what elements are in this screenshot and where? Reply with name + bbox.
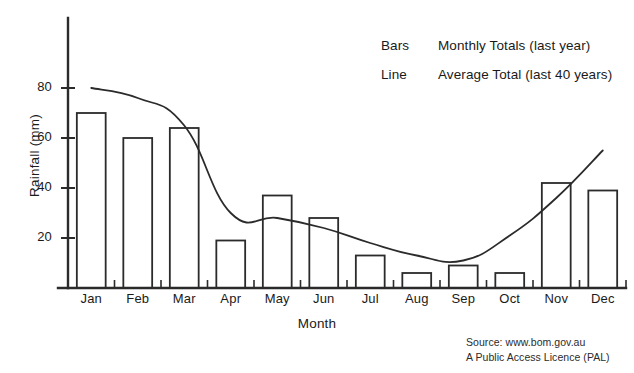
bar [263,196,292,289]
bar [588,191,617,289]
x-tick-label: Jul [345,291,395,306]
y-tick-label: 60 [10,129,52,144]
bar [449,266,478,289]
x-tick-label: Apr [206,291,256,306]
chart-legend: Bars Monthly Totals (last year) Line Ave… [381,38,631,96]
y-tick-label: 40 [10,179,52,194]
legend-key-line: Line [381,67,438,82]
source-url: Source: www.bom.gov.au [466,335,610,350]
bar [77,113,106,288]
legend-description-bars: Monthly Totals (last year) [438,38,590,53]
legend-row-bars: Bars Monthly Totals (last year) [381,38,631,53]
x-tick-label: Mar [159,291,209,306]
x-tick-label: Sep [438,291,488,306]
bar-series [77,113,617,288]
y-axis-title: Rainfall (mm) [27,86,42,226]
bar [402,273,431,288]
bar [170,128,199,288]
legend-description-line: Average Total (last 40 years) [438,67,612,82]
x-tick-label: Aug [392,291,442,306]
bar [356,256,385,289]
average-line-series [91,88,603,262]
x-tick-label: Oct [485,291,535,306]
source-licence: A Public Access Licence (PAL) [466,350,610,365]
y-tick-label: 80 [10,79,52,94]
bar [216,241,245,289]
x-tick-label: Nov [531,291,581,306]
x-tick-label: Dec [578,291,628,306]
source-note: Source: www.bom.gov.au A Public Access L… [466,335,610,365]
legend-row-line: Line Average Total (last 40 years) [381,67,631,82]
x-tick-label: Feb [113,291,163,306]
bar [495,273,524,288]
bar [123,138,152,288]
x-tick-label: Jan [66,291,116,306]
legend-key-bars: Bars [381,38,438,53]
x-tick-label: Jun [299,291,349,306]
y-tick-label: 20 [10,229,52,244]
x-axis-title: Month [0,316,634,331]
rainfall-chart: Rainfall (mm) Month 20406080 JanFebMarAp… [0,0,634,373]
x-tick-label: May [252,291,302,306]
